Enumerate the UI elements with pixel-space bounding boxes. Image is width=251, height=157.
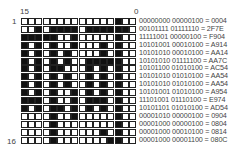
empty-cell [107, 50, 114, 57]
empty-cell [28, 58, 35, 65]
filled-cell [107, 137, 114, 144]
filled-cell [115, 137, 122, 144]
filled-cell [64, 81, 71, 88]
empty-cell [107, 18, 114, 25]
empty-cell [100, 137, 107, 144]
empty-cell [43, 97, 50, 104]
empty-cell [107, 89, 114, 96]
empty-cell [122, 121, 129, 128]
empty-cell [21, 18, 28, 25]
empty-cell [107, 73, 114, 80]
empty-cell [100, 18, 107, 25]
filled-cell [57, 65, 64, 72]
empty-cell [43, 50, 50, 57]
filled-cell [93, 97, 100, 104]
empty-cell [21, 26, 28, 33]
empty-cell [28, 113, 35, 120]
empty-cell [79, 97, 86, 104]
empty-cell [64, 113, 71, 120]
empty-cell [122, 58, 129, 65]
empty-cell [71, 121, 78, 128]
empty-cell [57, 137, 64, 144]
empty-cell [64, 105, 71, 112]
filled-cell [93, 26, 100, 33]
filled-cell [35, 81, 42, 88]
bit-15-label: 15 [20, 8, 29, 16]
empty-cell [107, 65, 114, 72]
empty-cell [57, 97, 64, 104]
empty-cell [79, 50, 86, 57]
empty-cell [107, 81, 114, 88]
filled-cell [35, 89, 42, 96]
filled-cell [50, 137, 57, 144]
filled-cell [21, 65, 28, 72]
filled-cell [35, 58, 42, 65]
empty-cell [79, 137, 86, 144]
empty-cell [100, 34, 107, 41]
empty-cell [71, 73, 78, 80]
filled-cell [115, 34, 122, 41]
empty-cell [86, 137, 93, 144]
empty-cell [71, 137, 78, 144]
filled-cell [115, 42, 122, 49]
empty-cell [129, 121, 136, 128]
empty-cell [107, 105, 114, 112]
empty-cell [122, 129, 129, 136]
empty-cell [64, 18, 71, 25]
empty-cell [107, 121, 114, 128]
empty-cell [93, 137, 100, 144]
filled-cell [86, 58, 93, 65]
empty-cell [79, 65, 86, 72]
filled-cell [43, 34, 50, 41]
filled-cell [50, 89, 57, 96]
filled-cell [100, 26, 107, 33]
filled-cell [115, 121, 122, 128]
filled-cell [35, 34, 42, 41]
empty-cell [35, 113, 42, 120]
empty-cell [21, 129, 28, 136]
filled-cell [115, 113, 122, 120]
empty-cell [122, 81, 129, 88]
empty-cell [43, 42, 50, 49]
empty-cell [86, 50, 93, 57]
empty-cell [28, 105, 35, 112]
filled-cell [35, 50, 42, 57]
empty-cell [79, 26, 86, 33]
empty-cell [64, 137, 71, 144]
filled-cell [35, 105, 42, 112]
filled-cell [71, 113, 78, 120]
empty-cell [79, 42, 86, 49]
filled-cell [100, 81, 107, 88]
empty-cell [122, 73, 129, 80]
filled-cell [115, 18, 122, 25]
filled-cell [100, 129, 107, 136]
filled-cell [21, 89, 28, 96]
empty-cell [57, 73, 64, 80]
empty-cell [57, 58, 64, 65]
empty-cell [129, 81, 136, 88]
empty-cell [28, 121, 35, 128]
empty-cell [107, 97, 114, 104]
empty-cell [86, 34, 93, 41]
empty-cell [93, 105, 100, 112]
empty-cell [93, 42, 100, 49]
empty-cell [43, 113, 50, 120]
empty-cell [57, 42, 64, 49]
filled-cell [50, 50, 57, 57]
filled-cell [115, 97, 122, 104]
empty-cell [93, 113, 100, 120]
row-value-text: 00001000 00001100 = 080C [139, 136, 227, 144]
empty-cell [71, 50, 78, 57]
filled-cell [50, 113, 57, 120]
empty-cell [86, 129, 93, 136]
filled-cell [50, 121, 57, 128]
filled-cell [86, 105, 93, 112]
empty-cell [35, 137, 42, 144]
empty-cell [79, 89, 86, 96]
empty-cell [122, 42, 129, 49]
empty-cell [50, 18, 57, 25]
filled-cell [35, 73, 42, 80]
filled-cell [107, 26, 114, 33]
filled-cell [115, 89, 122, 96]
empty-cell [93, 129, 100, 136]
